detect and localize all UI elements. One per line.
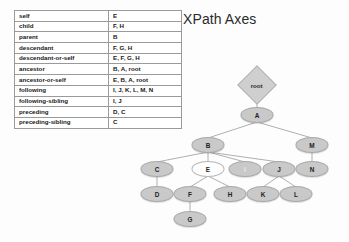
table-row: descendantF, G, H [15, 43, 182, 54]
axis-name-cell: preceding-sibling [15, 117, 109, 128]
table-body: selfEchildF, HparentBdescendantF, G, Hde… [15, 11, 182, 129]
tree-node-d[interactable]: D [141, 186, 174, 202]
axis-nodes-cell: E, F, G, H [109, 53, 182, 64]
slide-canvas: selfEchildF, HparentBdescendantF, G, Hde… [0, 0, 349, 242]
axis-nodes-cell: E [109, 11, 182, 22]
table-row: childF, H [15, 21, 182, 32]
tree-node-root[interactable]: root [237, 65, 277, 105]
axis-name-cell: following-sibling [15, 96, 109, 107]
tree-node-e[interactable]: E [192, 161, 225, 177]
tree-node-label: D [155, 191, 160, 198]
tree-node-label: L [294, 191, 298, 198]
tree-node-label: K [261, 191, 266, 198]
axis-nodes-cell: I, J, K, L, M, N [109, 85, 182, 96]
table-row: parentB [15, 32, 182, 43]
table-row: descendant-or-selfE, F, G, H [15, 53, 182, 64]
axis-nodes-cell: F, H [109, 21, 182, 32]
tree-node-label: root [251, 82, 263, 89]
axis-name-cell: ancestor-or-self [15, 75, 109, 86]
tree-node-label: N [310, 166, 315, 173]
axis-nodes-cell: F, G, H [109, 43, 182, 54]
axis-name-cell: self [15, 11, 109, 22]
tree-node-label: I [244, 166, 246, 173]
axis-nodes-cell: B [109, 32, 182, 43]
axis-nodes-cell: C [109, 117, 182, 128]
axis-name-cell: child [15, 21, 109, 32]
xpath-axes-table: selfEchildF, HparentBdescendantF, G, Hde… [14, 10, 182, 129]
table-row: ancestorB, A, root [15, 64, 182, 75]
tree-edge-a-b [208, 122, 257, 138]
tree-node-label: G [188, 216, 193, 223]
axis-name-cell: descendant [15, 43, 109, 54]
tree-edge-a-m [257, 122, 312, 138]
tree-node-g[interactable]: G [174, 211, 207, 227]
tree-node-label: J [277, 166, 281, 173]
axis-nodes-cell: D, C [109, 107, 182, 118]
tree-node-label: F [188, 191, 192, 198]
tree-node-label: C [155, 166, 160, 173]
tree-node-b[interactable]: B [192, 137, 225, 153]
tree-node-l[interactable]: L [280, 186, 313, 202]
tree-node-label: E [206, 166, 210, 173]
tree-node-i[interactable]: I [229, 161, 262, 177]
axis-nodes-cell: I, J [109, 96, 182, 107]
table-row: precedingD, C [15, 107, 182, 118]
tree-node-c[interactable]: C [141, 161, 174, 177]
tree-node-label: B [206, 142, 211, 149]
tree-node-j[interactable]: J [263, 161, 296, 177]
axis-name-cell: descendant-or-self [15, 53, 109, 64]
tree-node-f[interactable]: F [174, 186, 207, 202]
axis-name-cell: following [15, 85, 109, 96]
axis-name-cell: parent [15, 32, 109, 43]
axis-name-cell: ancestor [15, 64, 109, 75]
axis-nodes-cell: E, B, A, root [109, 75, 182, 86]
tree-node-a[interactable]: A [241, 107, 274, 123]
axis-name-cell: preceding [15, 107, 109, 118]
table-row: followingI, J, K, L, M, N [15, 85, 182, 96]
tree-node-label: H [228, 191, 233, 198]
tree-node-m[interactable]: M [296, 137, 329, 153]
tree-node-label: M [309, 142, 314, 149]
table-row: ancestor-or-selfE, B, A, root [15, 75, 182, 86]
tree-node-h[interactable]: H [214, 186, 247, 202]
page-title: XPath Axes [183, 11, 256, 27]
table-row: following-siblingI, J [15, 96, 182, 107]
table-row: preceding-siblingC [15, 117, 182, 128]
axis-nodes-cell: B, A, root [109, 64, 182, 75]
table-row: selfE [15, 11, 182, 22]
tree-node-label: A [255, 112, 260, 119]
tree-node-n[interactable]: N [296, 161, 329, 177]
tree-edge-b-c [157, 152, 208, 162]
tree-node-k[interactable]: K [247, 186, 280, 202]
